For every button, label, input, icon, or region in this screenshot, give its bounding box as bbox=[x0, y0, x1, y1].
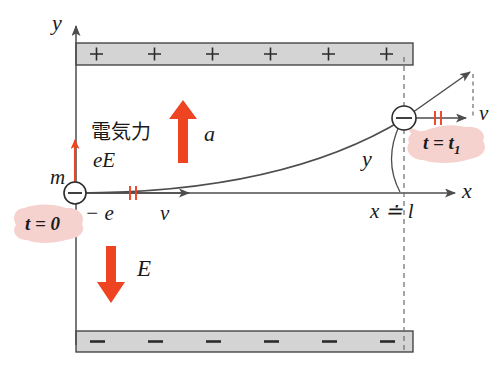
x-equals-l-label: x ≐ l bbox=[370, 201, 414, 222]
electron-at-t0 bbox=[64, 182, 86, 204]
bottom-plate bbox=[76, 331, 413, 352]
bottom-plate-body bbox=[76, 331, 413, 352]
final-velocity-x-vector bbox=[412, 111, 466, 125]
t-one-badge-main: t = t bbox=[423, 132, 454, 153]
y-axis-label: y bbox=[52, 12, 62, 34]
final-velocity-label: v bbox=[479, 103, 488, 124]
electron-at-t1 bbox=[392, 106, 416, 130]
acceleration-arrow bbox=[169, 100, 197, 163]
x-axis-label: x bbox=[462, 180, 472, 202]
t-zero-badge-label: t = 0 bbox=[25, 214, 60, 233]
electric-force-caption-jp: 電気力 bbox=[91, 122, 151, 142]
top-plate bbox=[76, 43, 413, 65]
charge-label: − e bbox=[85, 203, 114, 224]
field-label: E bbox=[137, 257, 151, 280]
electric-force-label: eE bbox=[93, 150, 115, 171]
diagram-canvas bbox=[0, 0, 504, 375]
acceleration-label: a bbox=[204, 123, 215, 145]
resultant-velocity-arrow bbox=[409, 72, 470, 115]
electric-field-arrow bbox=[97, 246, 125, 303]
t-one-badge-label: t = t1 bbox=[423, 133, 460, 157]
physics-diagram-figure: y x 電気力 eE a E m − e v v y x ≐ l t = 0 t… bbox=[0, 0, 504, 375]
coordinate-axes bbox=[76, 26, 455, 345]
y-displacement-brace bbox=[392, 124, 401, 192]
top-plate-body bbox=[76, 43, 413, 65]
t-one-badge-subscript: 1 bbox=[454, 142, 460, 157]
y-displacement-label: y bbox=[362, 148, 372, 170]
initial-velocity-label: v bbox=[160, 203, 169, 224]
mass-label: m bbox=[50, 167, 65, 188]
